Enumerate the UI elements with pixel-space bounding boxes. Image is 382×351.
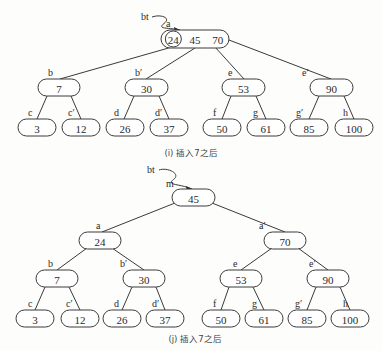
node-label: b	[48, 67, 53, 78]
tree-node-b2: 30b′	[125, 67, 168, 96]
root-pointer-label: bt	[141, 11, 149, 22]
tree-node-c2: 12c′	[62, 107, 100, 136]
tree-node-d2: 37d′	[146, 298, 184, 327]
node-label: b′	[120, 258, 127, 269]
tree-edge	[124, 96, 134, 119]
tree-edge	[241, 248, 272, 270]
node-label: a′	[259, 220, 266, 231]
node-label: c	[28, 107, 33, 118]
node-key: 3	[34, 123, 40, 135]
node-label: g′	[295, 298, 302, 309]
tree-node-e: 53e	[222, 67, 265, 96]
tree-edge	[60, 47, 172, 79]
tree-node-d: 26d	[103, 298, 141, 327]
tree-node-b: 7b	[38, 67, 80, 96]
tree-node-d2: 37d′	[150, 107, 188, 136]
node-label: g	[253, 107, 258, 118]
node-label: d	[114, 107, 119, 118]
tree-node-f: 50f	[203, 107, 241, 136]
tree-node-g: 61g	[245, 298, 283, 327]
node-key: 61	[259, 314, 270, 326]
node-key: 90	[323, 274, 335, 286]
node-key: 24	[95, 236, 107, 248]
node-label: m	[166, 178, 174, 189]
tree-node-c: 3c	[16, 298, 54, 327]
tree-node-c: 3c	[18, 107, 56, 136]
tree-node-d: 26d	[106, 107, 144, 136]
node-key: 7	[54, 274, 60, 286]
b-tree-insertion-figure: bt244570a7b30b′53e90e′3c12c′26d37d′50f61…	[0, 0, 382, 351]
node-key: 26	[120, 123, 132, 135]
tree-node-h: 100h	[331, 298, 369, 327]
tree-node-a: 244570a	[161, 18, 229, 48]
tree-node-e2: 90e′	[307, 258, 349, 287]
tree-node-g2: 85g′	[288, 298, 326, 327]
node-label: h	[343, 298, 348, 309]
node-label: g	[252, 298, 257, 309]
node-label: g′	[296, 107, 303, 118]
tree-node-f: 50f	[202, 298, 240, 327]
node-label: a	[166, 18, 171, 29]
diagram-canvas: bt244570a7b30b′53e90e′3c12c′26d37d′50f61…	[0, 0, 382, 351]
node-key: 100	[342, 314, 359, 326]
node-label: b′	[135, 67, 142, 78]
tree-node-g2: 85g′	[290, 107, 328, 136]
node-key: 85	[304, 123, 316, 135]
node-label: e	[233, 258, 238, 269]
tree-node-h: 100h	[335, 107, 373, 136]
node-key: 53	[236, 274, 248, 286]
tree-edge	[122, 287, 132, 310]
tree-edge	[222, 96, 231, 119]
node-key: 37	[164, 123, 176, 135]
tree-edge	[229, 40, 331, 79]
node-key: 50	[216, 314, 228, 326]
tree-diagram-i: bt244570a7b30b′53e90e′3c12c′26d37d′50f61…	[18, 11, 373, 158]
tree-edge	[112, 248, 144, 270]
node-label: d	[114, 298, 119, 309]
tree-node-b: 7b	[36, 258, 78, 287]
node-label: e	[228, 67, 233, 78]
node-key: 3	[32, 314, 38, 326]
node-key: 61	[261, 123, 272, 135]
tree-edge	[212, 203, 285, 232]
node-key: 50	[217, 123, 229, 135]
node-key: 85	[302, 314, 314, 326]
node-label: d′	[155, 107, 162, 118]
tree-edge	[221, 287, 229, 310]
node-label: e′	[302, 67, 309, 78]
node-key: 45	[188, 193, 200, 205]
node-key: 70	[280, 236, 292, 248]
node-label: d′	[152, 298, 159, 309]
tree-node-a: 24a	[79, 220, 121, 249]
figure-caption: (j) 插入7之后	[168, 334, 221, 344]
node-label: a	[96, 220, 101, 231]
tree-edge	[309, 96, 319, 119]
tree-edge	[307, 287, 316, 310]
node-key: 100	[346, 123, 363, 135]
node-key: 90	[326, 83, 338, 95]
node-label: b	[48, 258, 53, 269]
node-label: c	[28, 298, 33, 309]
node-key: 70	[212, 34, 224, 46]
node-key: 37	[160, 314, 172, 326]
tree-diagram-j: bt45m24a70a′7b30b′53e90e′3c12c′26d37d′50…	[16, 164, 369, 344]
node-key: 12	[75, 314, 86, 326]
node-label: f	[213, 298, 217, 309]
tree-edge	[57, 248, 87, 270]
tree-node-b2: 30b′	[120, 258, 165, 287]
node-label: c′	[68, 107, 75, 118]
node-key: 26	[117, 314, 129, 326]
node-label: f	[213, 107, 217, 118]
node-key: 30	[141, 83, 153, 95]
node-label: h	[343, 107, 348, 118]
tree-edge	[102, 203, 175, 232]
tree-edge	[37, 96, 47, 119]
node-key: 30	[139, 274, 151, 286]
node-key: 12	[76, 123, 87, 135]
node-key: 24	[168, 34, 180, 46]
tree-node-c2: 12c′	[61, 298, 99, 327]
root-pointer-arrow	[159, 169, 192, 189]
node-key: 45	[190, 34, 202, 46]
figure-caption: (i) 插入7之后	[164, 148, 217, 158]
tree-node-e: 53e	[220, 258, 262, 287]
